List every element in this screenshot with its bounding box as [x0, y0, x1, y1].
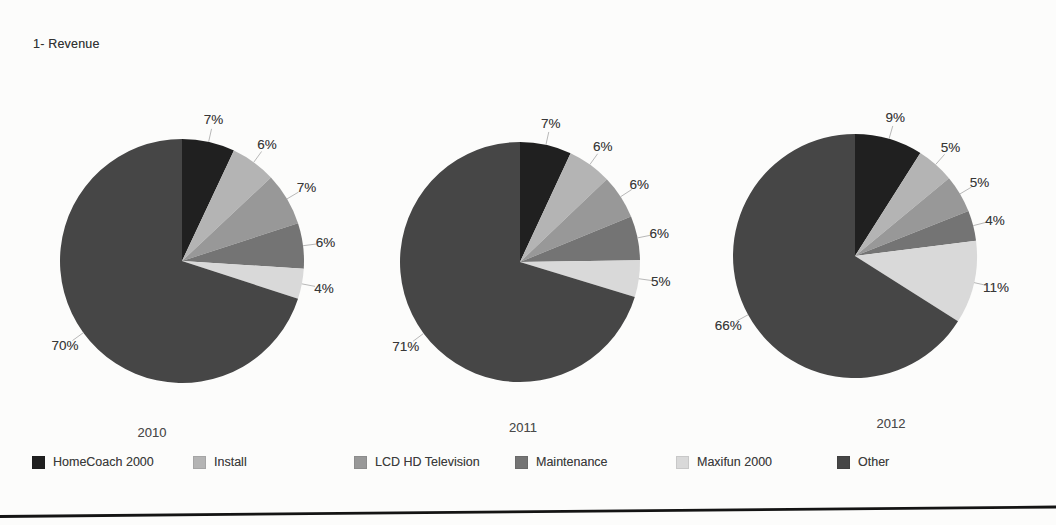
legend-item-label: LCD HD Television	[375, 455, 480, 469]
percent-label-lcd-hd-television: 6%	[630, 177, 650, 192]
scanned-report-page: 1- Revenue 7%6%7%6%4%70% 7%6%6%6%5%71% 9…	[0, 0, 1056, 525]
legend-item-label: Other	[858, 455, 889, 469]
year-label-2011: 2011	[509, 420, 537, 435]
leader-tick	[973, 222, 986, 225]
legend-item-label: Maintenance	[536, 455, 608, 469]
leader-tick	[546, 132, 549, 145]
percent-label-maxifun-2000: 4%	[314, 281, 334, 296]
leader-tick	[639, 279, 652, 281]
legend: HomeCoach 2000 Install LCD HD Television…	[32, 455, 998, 469]
percent-label-maxifun-2000: 5%	[651, 274, 671, 289]
legend-item-label: Install	[214, 455, 247, 469]
percent-label-install: 6%	[257, 137, 277, 152]
percent-label-maintenance: 6%	[316, 235, 336, 250]
year-label-2010: 2010	[138, 425, 167, 440]
legend-item-maxifun-2000: Maxifun 2000	[676, 455, 837, 469]
legend-swatch-maintenance	[515, 456, 528, 469]
legend-swatch-lcd-hd-television	[354, 456, 367, 469]
percent-label-other: 66%	[715, 318, 742, 333]
legend-swatch-homecoach-2000	[32, 456, 45, 469]
legend-item-homecoach-2000: HomeCoach 2000	[32, 455, 193, 469]
legend-item-label: Maxifun 2000	[697, 455, 772, 469]
leader-tick	[889, 126, 893, 139]
percent-label-maintenance: 6%	[650, 226, 670, 241]
percent-label-homecoach-2000: 7%	[204, 112, 224, 127]
percent-label-install: 6%	[593, 139, 613, 154]
legend-item-lcd-hd-television: LCD HD Television	[354, 455, 515, 469]
legend-swatch-maxifun-2000	[676, 456, 689, 469]
year-label-2012: 2012	[877, 416, 906, 431]
percent-label-lcd-hd-television: 7%	[297, 180, 317, 195]
page-title: 1- Revenue	[33, 37, 100, 51]
leader-tick	[209, 129, 212, 142]
legend-swatch-install	[193, 456, 206, 469]
legend-item-maintenance: Maintenance	[515, 455, 676, 469]
page-edge-line-stroke	[0, 507, 1056, 517]
percent-label-homecoach-2000: 9%	[886, 110, 906, 125]
page-edge-line	[0, 498, 1056, 522]
percent-label-lcd-hd-television: 5%	[970, 175, 990, 190]
leader-tick	[936, 154, 945, 164]
leader-tick	[302, 284, 315, 287]
percent-label-other: 70%	[52, 338, 79, 353]
percent-label-install: 5%	[941, 140, 961, 155]
legend-swatch-other	[837, 456, 850, 469]
pie-chart-2012: 9%5%5%4%11%66%	[675, 86, 1035, 436]
legend-item-other: Other	[837, 455, 998, 469]
legend-item-install: Install	[193, 455, 354, 469]
leader-tick	[590, 154, 598, 165]
percent-label-maxifun-2000: 11%	[983, 280, 1009, 295]
percent-label-maintenance: 4%	[985, 213, 1005, 228]
percent-label-homecoach-2000: 7%	[541, 116, 561, 131]
leader-tick	[254, 151, 262, 162]
leader-tick	[303, 244, 316, 246]
pie-chart-2011: 7%6%6%6%5%71%	[340, 92, 700, 442]
pie-chart-2010: 7%6%7%6%4%70%	[2, 91, 362, 441]
legend-item-label: HomeCoach 2000	[53, 455, 154, 469]
percent-label-other: 71%	[392, 339, 419, 354]
